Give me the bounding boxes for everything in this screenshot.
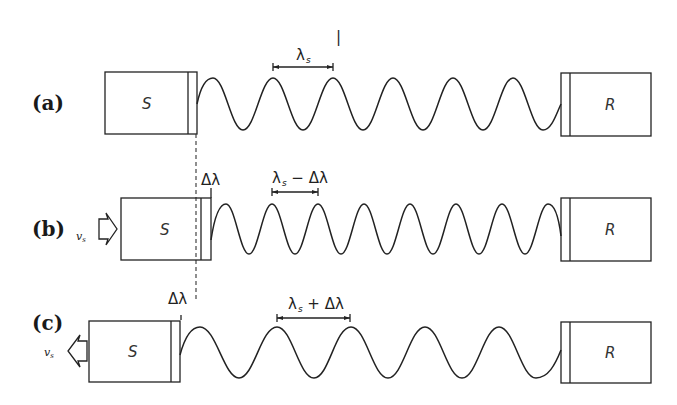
panel-label-b: (b): [32, 217, 65, 241]
delta-label-c: Δλ: [168, 290, 187, 308]
wavelength-marker-a: λs: [273, 46, 333, 71]
source-box-a: S: [105, 72, 197, 134]
source-label-b: S: [160, 221, 170, 239]
receiver-box-b: R: [561, 198, 651, 261]
receiver-label-c: R: [605, 344, 615, 362]
wave-c: [180, 327, 561, 378]
velocity-label-b: vs: [76, 230, 86, 244]
wavelength-label-b: λs − Δλ: [272, 169, 328, 188]
arrow-left-icon: [68, 335, 87, 367]
wavelength-marker-c: λs + Δλ: [277, 295, 350, 322]
arrow-right-icon: [99, 213, 117, 245]
source-box-c: S: [89, 321, 180, 382]
panel-label-a: (a): [32, 91, 64, 115]
source-label-c: S: [128, 343, 138, 361]
delta-lambda-marker-c: Δλ: [168, 290, 187, 320]
wavelength-marker-b: λs − Δλ: [272, 169, 328, 196]
velocity-label-c: vs: [44, 346, 54, 360]
panel-b: (b) vs S Δλ λs − Δλ: [32, 169, 651, 261]
receiver-box-a: R: [561, 73, 651, 136]
delta-label-b: Δλ: [201, 171, 220, 189]
delta-lambda-marker-b: Δλ: [201, 171, 220, 198]
receiver-box-c: R: [561, 322, 651, 383]
panel-c: (c) vs S Δλ λs + Δλ: [32, 290, 651, 383]
source-label-a: S: [142, 95, 152, 113]
source-box-b: S: [121, 198, 211, 260]
wavelength-label-a: λs: [296, 46, 311, 65]
wave-b: [211, 204, 561, 254]
wavelength-label-c: λs + Δλ: [288, 295, 344, 314]
stray-mark: |: [336, 28, 341, 46]
wave-a: [197, 78, 561, 130]
receiver-label-a: R: [605, 96, 615, 114]
doppler-diagram: | (a) S λs R (b) v: [0, 0, 677, 405]
panel-label-c: (c): [32, 311, 63, 335]
panel-a: (a) S λs R: [32, 46, 651, 136]
receiver-label-b: R: [605, 221, 615, 239]
